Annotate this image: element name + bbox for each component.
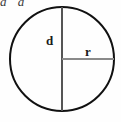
- radius-label: r: [85, 45, 91, 58]
- diameter-label: d: [46, 34, 53, 47]
- geometry-figure: d d d r: [0, 0, 121, 122]
- circle-diagram-svg: [0, 0, 121, 122]
